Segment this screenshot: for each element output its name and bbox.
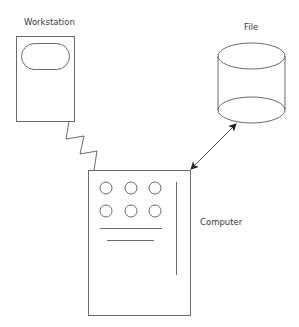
file-cylinder-bottom-back	[218, 97, 285, 110]
computer-button-icon	[149, 205, 161, 217]
file-node: File	[218, 22, 285, 123]
computer-body	[89, 171, 191, 316]
file-cylinder-body	[218, 56, 285, 123]
computer-node: Computer	[89, 171, 243, 316]
workstation-node: Workstation	[17, 17, 75, 122]
computer-button-icon	[100, 205, 112, 217]
workstation-label: Workstation	[24, 17, 75, 27]
double-arrow-link	[191, 124, 236, 169]
file-label: File	[244, 22, 258, 32]
workstation-body	[17, 37, 75, 122]
diagram-canvas: Workstation File Computer	[0, 0, 299, 327]
workstation-screen	[22, 44, 70, 70]
computer-button-icon	[100, 182, 112, 194]
computer-button-icon	[125, 205, 137, 217]
computer-label: Computer	[200, 217, 243, 227]
file-cylinder-top	[218, 43, 285, 69]
computer-button-icon	[125, 182, 137, 194]
zigzag-link	[66, 121, 97, 170]
computer-button-icon	[149, 182, 161, 194]
